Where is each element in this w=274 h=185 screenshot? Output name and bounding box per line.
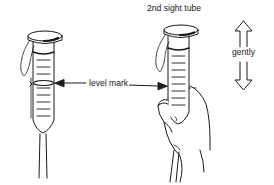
- sight-tube-left: [21, 31, 62, 178]
- graduation-marks: [172, 56, 185, 105]
- level-mark-arrow-right: [128, 83, 167, 90]
- level-mark-label: level mark: [88, 78, 129, 88]
- gently-label: gently: [232, 47, 255, 57]
- chain-icon: [156, 34, 169, 72]
- diagram-drawing: [0, 0, 274, 185]
- graduation-marks: [37, 60, 50, 116]
- sight-tube-right: [156, 25, 210, 182]
- diagram-title: 2nd sight tube: [147, 3, 201, 13]
- diagram-canvas: 2nd sight tube level mark gently: [0, 0, 274, 185]
- chain-icon: [21, 40, 34, 76]
- level-mark-arrow-left: [55, 80, 86, 87]
- hand-icon: [158, 86, 210, 182]
- tube-cap-icon: [164, 25, 198, 38]
